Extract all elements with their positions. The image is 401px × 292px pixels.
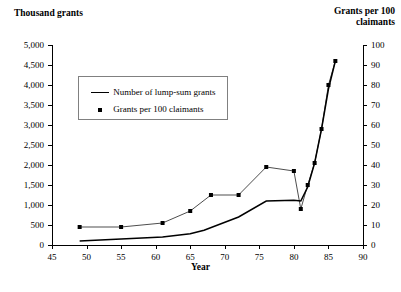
legend-item-grants-per-100: Grants per 100 claimants: [89, 103, 203, 114]
left-tick-label: 2,000: [0, 161, 44, 170]
x-tick-label: 45: [39, 253, 65, 262]
left-tick-label: 5,000: [0, 41, 44, 50]
left-tick-label: 0: [0, 241, 44, 250]
legend-label: Grants per 100 claimants: [113, 104, 203, 114]
right-tick-label: 70: [371, 101, 399, 110]
legend-label: Number of lump-sum grants: [113, 87, 215, 97]
x-tick: [328, 245, 329, 249]
left-tick-label: 3,000: [0, 121, 44, 130]
data-point-marker: [237, 193, 241, 197]
x-tick-label: 55: [108, 253, 134, 262]
x-tick: [294, 245, 295, 249]
x-tick: [190, 245, 191, 249]
data-point-marker: [78, 225, 82, 229]
left-tick-label: 1,500: [0, 181, 44, 190]
x-tick-label: 80: [281, 253, 307, 262]
left-tick-label: 4,500: [0, 61, 44, 70]
x-tick-label: 65: [177, 253, 203, 262]
right-tick: [363, 65, 367, 66]
right-tick-label: 20: [371, 201, 399, 210]
left-tick-label: 3,500: [0, 101, 44, 110]
data-point-marker: [299, 207, 303, 211]
left-axis-title: Thousand grants: [14, 8, 83, 19]
legend-square-marker-icon: [89, 104, 111, 114]
left-tick-label: 500: [0, 221, 44, 230]
data-point-marker: [209, 193, 213, 197]
x-tick: [121, 245, 122, 249]
right-tick: [363, 165, 367, 166]
data-point-marker: [188, 209, 192, 213]
left-tick-label: 1,000: [0, 201, 44, 210]
right-tick: [363, 225, 367, 226]
right-tick: [363, 105, 367, 106]
x-tick-label: 85: [315, 253, 341, 262]
chart-legend: Number of lump-sum grants Grants per 100…: [78, 76, 228, 120]
x-tick: [52, 245, 53, 249]
right-tick-label: 30: [371, 181, 399, 190]
right-tick-label: 40: [371, 161, 399, 170]
legend-line-icon: [89, 87, 111, 97]
x-tick-label: 75: [246, 253, 272, 262]
left-tick-label: 4,000: [0, 81, 44, 90]
x-tick-label: 70: [212, 253, 238, 262]
right-tick: [363, 125, 367, 126]
x-tick-label: 90: [350, 253, 376, 262]
x-tick-label: 50: [74, 253, 100, 262]
right-axis-title-line2: claimants: [285, 17, 395, 28]
x-tick-label: 60: [143, 253, 169, 262]
data-point-marker: [119, 225, 123, 229]
right-tick-label: 10: [371, 221, 399, 230]
right-axis-title: Grants per 100 claimants: [285, 6, 395, 28]
right-tick: [363, 205, 367, 206]
right-tick-label: 50: [371, 141, 399, 150]
right-tick-label: 90: [371, 61, 399, 70]
right-tick: [363, 185, 367, 186]
right-tick-label: 60: [371, 121, 399, 130]
left-tick-label: 2,500: [0, 141, 44, 150]
legend-item-lump-sum-grants: Number of lump-sum grants: [89, 86, 215, 97]
series-layer: [52, 45, 363, 245]
x-tick: [87, 245, 88, 249]
chart-figure: Thousand grants Grants per 100 claimants…: [0, 0, 401, 292]
right-tick: [363, 145, 367, 146]
plot-area: [52, 45, 363, 245]
x-axis-line: [52, 245, 364, 246]
right-tick-label: 100: [371, 41, 399, 50]
data-point-marker: [161, 221, 165, 225]
x-axis-title: Year: [0, 262, 401, 272]
x-tick: [363, 245, 364, 249]
data-point-marker: [264, 165, 268, 169]
right-axis-title-line1: Grants per 100: [285, 6, 395, 17]
x-tick: [225, 245, 226, 249]
x-tick: [259, 245, 260, 249]
x-tick: [156, 245, 157, 249]
right-tick: [363, 45, 367, 46]
right-tick-label: 0: [371, 241, 399, 250]
data-point-marker: [292, 169, 296, 173]
right-tick-label: 80: [371, 81, 399, 90]
right-tick: [363, 85, 367, 86]
